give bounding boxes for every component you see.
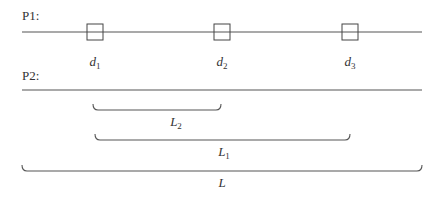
brace-label-L: L xyxy=(218,176,225,190)
brace-label-L1: L1 xyxy=(218,145,230,163)
brace-L2 xyxy=(93,104,221,110)
brace-L1 xyxy=(95,134,350,140)
marker-label-d2: d2 xyxy=(217,55,228,73)
marker-label-d1: d1 xyxy=(90,55,101,73)
row-label-p2: P2: xyxy=(22,69,39,83)
marker-label-d3: d3 xyxy=(345,55,356,73)
row-label-p1: P1: xyxy=(22,9,39,23)
brace-L xyxy=(22,165,422,171)
brace-label-L2: L2 xyxy=(170,115,182,133)
diagram-graphics xyxy=(0,0,443,199)
diagram-canvas: P1: P2: d1 d2 d3 L2 L1 L xyxy=(0,0,443,199)
